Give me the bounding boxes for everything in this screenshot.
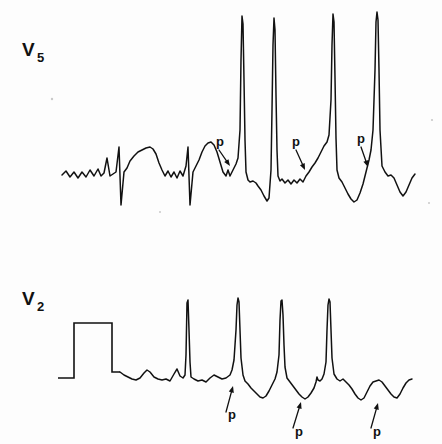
- paper-speck: [428, 202, 430, 204]
- p-wave-label: p: [228, 407, 236, 422]
- p-wave-label: p: [292, 134, 300, 149]
- p-wave-label: p: [373, 424, 381, 439]
- p-wave-label: p: [216, 134, 224, 149]
- ecg-figure: V 5 V 2 pppppp: [0, 0, 442, 444]
- lead-label-v5-subscript: 5: [37, 50, 44, 65]
- lead-label-v5: V: [22, 39, 35, 60]
- paper-speck: [159, 211, 161, 213]
- p-wave-label: p: [357, 131, 365, 146]
- paper-speck: [431, 119, 433, 121]
- lead-label-v2: V: [22, 288, 35, 309]
- paper-speck: [51, 98, 53, 100]
- ecg-canvas: V 5 V 2 pppppp: [0, 0, 442, 444]
- p-wave-label: p: [295, 424, 303, 439]
- lead-label-v2-subscript: 2: [37, 299, 44, 314]
